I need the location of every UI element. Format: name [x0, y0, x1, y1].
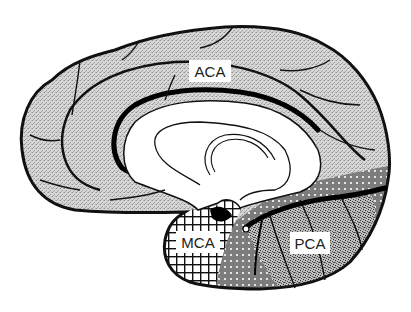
- label-pca-text: PCA: [295, 235, 326, 252]
- label-aca-text: ACA: [195, 63, 226, 80]
- brain-vascular-territory-diagram: ACA MCA PCA: [0, 0, 411, 312]
- label-pca: PCA: [290, 232, 330, 254]
- label-mca-text: MCA: [181, 234, 214, 251]
- pca-origin-dot: [243, 226, 249, 232]
- label-aca: ACA: [189, 60, 231, 82]
- label-mca: MCA: [176, 231, 220, 253]
